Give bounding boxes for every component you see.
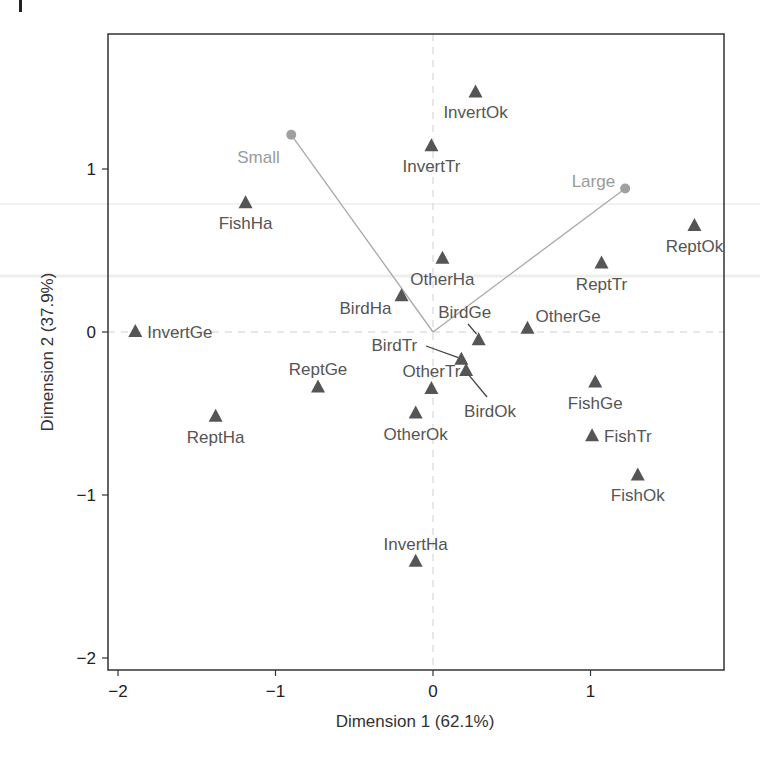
label-otherge: OtherGe — [536, 307, 601, 326]
x-tick-label: 1 — [586, 682, 595, 701]
triangle-marker-birdok — [459, 363, 473, 376]
label-reptge: ReptGe — [289, 360, 348, 379]
label-invertha: InvertHa — [384, 535, 449, 554]
y-axis-title: Dimension 2 (37.9%) — [38, 273, 57, 432]
triangle-marker-fishtr — [585, 428, 599, 441]
label-birdok: BirdOk — [464, 402, 516, 421]
triangle-marker-invertge — [128, 324, 142, 337]
label-birdtr: BirdTr — [372, 336, 418, 355]
triangle-marker-reptha — [209, 409, 223, 422]
label-invertok: InvertOk — [443, 103, 508, 122]
label-repttr: ReptTr — [576, 275, 628, 294]
label-inverttr: InvertTr — [402, 157, 460, 176]
triangle-marker-fishha — [239, 195, 253, 208]
x-tick-label: −1 — [266, 682, 285, 701]
x-tick-label: −2 — [108, 682, 127, 701]
label-reptha: ReptHa — [187, 428, 245, 447]
triangle-marker-fishok — [631, 467, 645, 480]
triangle-marker-birdge — [472, 332, 486, 345]
x-axis-ticks: −2−101 — [108, 670, 595, 701]
label-otherok: OtherOk — [384, 425, 449, 444]
y-tick-label: 0 — [87, 323, 96, 342]
correspondence-biplot: SmallLargeInvertOkInvertTrFishHaReptOkRe… — [0, 0, 760, 762]
x-axis-title: Dimension 1 (62.1%) — [336, 712, 495, 731]
triangle-marker-otherha — [435, 251, 449, 264]
label-small: Small — [237, 148, 280, 167]
label-fishha: FishHa — [219, 214, 273, 233]
triangle-marker-invertok — [469, 84, 483, 97]
triangle-marker-repttr — [595, 256, 609, 269]
y-tick-label: −1 — [77, 486, 96, 505]
circle-marker-small — [286, 130, 296, 140]
triangle-marker-invertha — [409, 554, 423, 567]
label-reptok: ReptOk — [666, 237, 724, 256]
triangle-marker-otherok — [409, 406, 423, 419]
y-axis-ticks: −2−101 — [77, 160, 108, 668]
circle-marker-large — [620, 184, 630, 194]
point-labels: SmallLargeInvertOkInvertTrFishHaReptOkRe… — [147, 103, 723, 553]
label-fishok: FishOk — [611, 486, 665, 505]
label-birdge: BirdGe — [438, 303, 491, 322]
callout-birdok — [468, 374, 487, 397]
callout-birdge — [468, 324, 477, 334]
triangle-marker-othertr — [424, 381, 438, 394]
y-tick-label: 1 — [87, 160, 96, 179]
y-tick-label: −2 — [77, 649, 96, 668]
callout-birdtr — [426, 346, 458, 358]
triangle-marker-reptok — [687, 218, 701, 231]
triangle-marker-fishge — [588, 375, 602, 388]
x-tick-label: 0 — [428, 682, 437, 701]
triangle-marker-inverttr — [424, 138, 438, 151]
label-fishge: FishGe — [568, 394, 623, 413]
label-otherha: OtherHa — [410, 270, 475, 289]
label-birdha: BirdHa — [340, 299, 393, 318]
triangle-marker-reptge — [311, 379, 325, 392]
label-large: Large — [572, 172, 615, 191]
label-invertge: InvertGe — [147, 323, 212, 342]
label-fishtr: FishTr — [604, 427, 652, 446]
label-othertr: OtherTr — [402, 362, 460, 381]
triangle-marker-otherge — [521, 321, 535, 334]
